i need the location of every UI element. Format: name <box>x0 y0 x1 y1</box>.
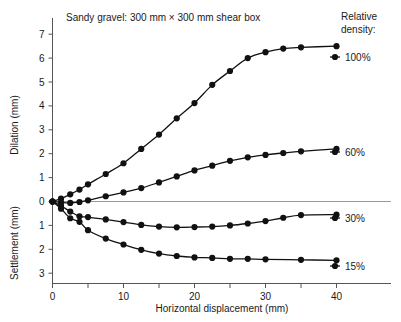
data-point <box>227 158 233 164</box>
legend-marker-100% <box>332 54 338 60</box>
y-axis-title-settlement: Settlement (mm) <box>9 206 20 280</box>
y-tick-label-settlement-2: 2 <box>39 244 45 255</box>
data-point <box>49 198 55 204</box>
series-30% <box>49 198 339 230</box>
data-point <box>298 44 304 50</box>
legend-title-line2: density: <box>341 24 375 35</box>
data-point <box>280 45 286 51</box>
y-axis-title-dilation: Dilation (mm) <box>9 95 20 154</box>
data-point <box>67 200 73 206</box>
data-point <box>298 212 304 218</box>
data-point <box>227 222 233 228</box>
data-point <box>85 214 91 220</box>
x-tick-label-40: 40 <box>331 291 343 302</box>
data-point <box>227 256 233 262</box>
data-series-layer <box>49 43 339 263</box>
data-point <box>85 197 91 203</box>
data-point <box>245 154 251 160</box>
data-point <box>262 256 268 262</box>
data-point <box>120 160 126 166</box>
data-point <box>191 224 197 230</box>
data-point <box>298 257 304 263</box>
y-tick-label-settlement-3: 3 <box>39 268 45 279</box>
data-point <box>103 216 109 222</box>
data-point <box>58 206 64 212</box>
data-point <box>138 146 144 152</box>
legend-label-30%: 30% <box>345 213 365 224</box>
series-100% <box>49 43 339 205</box>
data-point <box>76 186 82 192</box>
data-point <box>262 49 268 55</box>
data-point <box>280 215 286 221</box>
data-point <box>103 235 109 241</box>
x-tick-label-20: 20 <box>189 291 201 302</box>
data-point <box>298 148 304 154</box>
series-line-100% <box>53 46 337 201</box>
x-tick-label-10: 10 <box>118 291 130 302</box>
data-point <box>333 43 339 49</box>
data-point <box>174 224 180 230</box>
data-point <box>174 253 180 259</box>
data-point <box>245 256 251 262</box>
data-point <box>191 254 197 260</box>
legend-layer: 100%60%30%15% <box>330 52 371 272</box>
data-point <box>156 251 162 257</box>
data-point <box>174 115 180 121</box>
series-60% <box>49 146 339 206</box>
data-point <box>103 171 109 177</box>
data-point <box>191 167 197 173</box>
data-point <box>209 223 215 229</box>
data-point <box>120 189 126 195</box>
y-tick-label-settlement-1: 1 <box>39 220 45 231</box>
data-point <box>245 55 251 61</box>
data-point <box>191 100 197 106</box>
data-point <box>138 185 144 191</box>
legend-title-line1: Relative <box>341 11 378 22</box>
data-point <box>209 255 215 261</box>
data-point <box>262 152 268 158</box>
shear-box-dilation-chart: Sandy gravel: 300 mm × 300 mm shear box … <box>0 0 401 322</box>
data-point <box>156 131 162 137</box>
data-point <box>85 181 91 187</box>
x-axis-ticks: 010203040 <box>50 283 343 302</box>
data-point <box>85 227 91 233</box>
chart-canvas: Sandy gravel: 300 mm × 300 mm shear box … <box>0 0 401 322</box>
y-tick-label-zero: 0 <box>39 196 45 207</box>
data-point <box>209 163 215 169</box>
y-tick-label-dilation-2: 2 <box>39 148 45 159</box>
series-line-30% <box>53 202 337 228</box>
x-axis-title: Horizontal displacement (mm) <box>156 303 289 314</box>
legend-marker-30% <box>332 215 338 221</box>
data-point <box>120 219 126 225</box>
data-point <box>156 223 162 229</box>
legend-label-100%: 100% <box>345 52 371 63</box>
data-point <box>76 219 82 225</box>
x-tick-label-30: 30 <box>260 291 272 302</box>
legend-marker-15% <box>332 263 338 269</box>
legend-marker-60% <box>332 149 338 155</box>
y-tick-label-dilation-6: 6 <box>39 53 45 64</box>
data-point <box>156 179 162 185</box>
data-point <box>262 218 268 224</box>
chart-title: Sandy gravel: 300 mm × 300 mm shear box <box>66 12 260 23</box>
series-line-15% <box>53 202 337 261</box>
y-axis-ticks: 12345670123 <box>39 29 53 279</box>
data-point <box>174 173 180 179</box>
legend-item-100%: 100% <box>330 52 371 63</box>
data-point <box>67 191 73 197</box>
series-line-60% <box>53 149 337 203</box>
data-point <box>67 208 73 214</box>
data-point <box>138 222 144 228</box>
y-tick-label-dilation-7: 7 <box>39 29 45 40</box>
series-15% <box>49 198 339 263</box>
data-point <box>333 257 339 263</box>
data-point <box>280 150 286 156</box>
y-tick-label-dilation-5: 5 <box>39 77 45 88</box>
y-tick-label-dilation-1: 1 <box>39 172 45 183</box>
data-point <box>245 220 251 226</box>
data-point <box>120 241 126 247</box>
x-tick-label-0: 0 <box>50 291 56 302</box>
data-point <box>67 215 73 221</box>
y-tick-label-dilation-3: 3 <box>39 124 45 135</box>
y-tick-label-dilation-4: 4 <box>39 100 45 111</box>
